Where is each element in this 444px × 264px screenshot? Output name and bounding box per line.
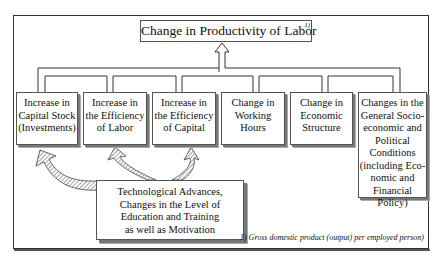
factor-text: Increase in <box>17 97 77 110</box>
factor-text: (including Eco- <box>359 160 426 173</box>
factor-text: Structure <box>291 122 352 135</box>
factor-box-efficiency-capital: Increase in the Efficiency of Capital <box>152 92 216 145</box>
factor-text: Increase in <box>84 97 146 110</box>
drivers-text: as well as Motivation <box>97 224 243 237</box>
factor-text: General Socio- <box>359 110 426 123</box>
factor-text: Capital Stock <box>17 110 77 123</box>
drivers-text: Technological Advances, <box>97 186 243 199</box>
drivers-text: Changes in the Level of <box>97 199 243 212</box>
factor-text: Change in <box>291 97 352 110</box>
drivers-text: Education and Training <box>97 211 243 224</box>
factor-text: Working <box>222 110 284 123</box>
outcome-title: Change in Productivity of Labor <box>141 23 316 38</box>
factor-text: the Efficiency <box>153 110 215 123</box>
factor-text: Economic <box>291 110 352 123</box>
influence-arrow-efficiency-labor <box>108 147 156 180</box>
factor-box-economic-structure: Change in Economic Structure <box>290 92 353 145</box>
influence-arrow-efficiency-capital <box>172 147 199 180</box>
factor-box-capital-stock: Increase in Capital Stock (Investments) <box>16 92 78 145</box>
factor-text: Conditions <box>359 147 426 160</box>
factor-text: (Investments) <box>17 122 77 135</box>
factor-box-working-hours: Change in Working Hours <box>221 92 285 145</box>
factor-text: Change in <box>222 97 284 110</box>
drivers-box: Technological Advances, Changes in the L… <box>96 180 244 240</box>
factor-text: of Capital <box>153 122 215 135</box>
factor-box-socio-economic-conditions: Changes in the General Socio- economic a… <box>358 92 427 198</box>
footnote: 1) Gross domestic product (output) per e… <box>240 233 424 242</box>
factor-text: nomic and <box>359 172 426 185</box>
factor-text: Increase in <box>153 97 215 110</box>
footnote-marker: 1) <box>304 15 310 35</box>
factor-text: Hours <box>222 122 284 135</box>
influence-arrow-capital-stock <box>36 150 98 190</box>
outcome-title-box: Change in Productivity of Labor 1) <box>140 20 312 42</box>
factor-text: Changes in the <box>359 97 426 110</box>
factor-text: of Labor <box>84 122 146 135</box>
factor-box-efficiency-labor: Increase in the Efficiency of Labor <box>83 92 147 145</box>
factor-text: economic and <box>359 122 426 135</box>
factor-text: Political <box>359 135 426 148</box>
factor-text: Financial Policy) <box>359 185 426 210</box>
factor-text: the Efficiency <box>84 110 146 123</box>
